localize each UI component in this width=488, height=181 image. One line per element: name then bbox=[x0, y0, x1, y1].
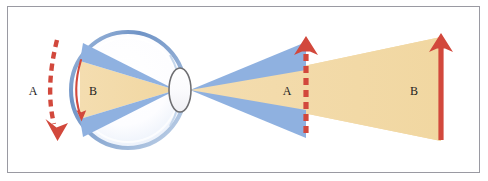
mid-arrow-label: A bbox=[283, 84, 292, 98]
lens bbox=[169, 68, 191, 112]
right-arrow-label: B bbox=[410, 84, 418, 98]
eye-arc-label: B bbox=[89, 84, 97, 98]
left-dashed-arc bbox=[50, 40, 57, 124]
left-arc-label: A bbox=[29, 84, 38, 98]
figure-root: B A A B bbox=[0, 0, 488, 181]
left-arc-arrowhead bbox=[46, 119, 69, 141]
left-curved-dashed-arrow: A bbox=[29, 40, 68, 141]
lens-group bbox=[169, 68, 191, 112]
eye-optics-diagram: B A A B bbox=[0, 0, 488, 181]
